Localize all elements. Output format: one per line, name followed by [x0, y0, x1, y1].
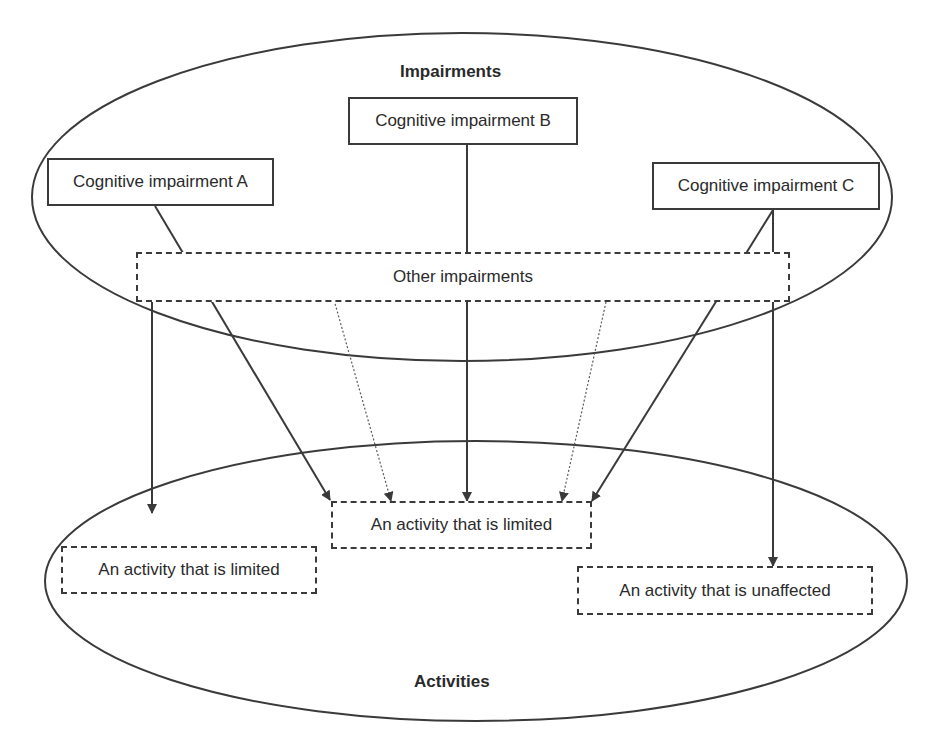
- cognitive-impairment-c-label: Cognitive impairment C: [678, 176, 855, 196]
- activities-title: Activities: [414, 672, 490, 692]
- edge-other-to-center-limited-dotted-1: [334, 300, 391, 501]
- other-impairments-box: Other impairments: [136, 252, 790, 302]
- activity-limited-center-label: An activity that is limited: [371, 515, 552, 535]
- edge-a-to-center-limited: [155, 206, 330, 500]
- impairment-activity-diagram: Impairments Activities Cognitive impairm…: [0, 0, 936, 749]
- cognitive-impairment-b-label: Cognitive impairment B: [375, 111, 551, 131]
- activity-unaffected-box: An activity that is unaffected: [577, 566, 873, 615]
- cognitive-impairment-c-box: Cognitive impairment C: [652, 162, 880, 210]
- cognitive-impairment-a-label: Cognitive impairment A: [73, 172, 248, 192]
- impairments-title: Impairments: [400, 62, 501, 82]
- activity-unaffected-label: An activity that is unaffected: [619, 581, 830, 601]
- activity-limited-center-box: An activity that is limited: [331, 501, 592, 549]
- cognitive-impairment-a-box: Cognitive impairment A: [47, 158, 274, 206]
- edge-other-to-center-limited-dotted-2: [562, 302, 606, 501]
- cognitive-impairment-b-box: Cognitive impairment B: [348, 97, 578, 145]
- activity-limited-left-label: An activity that is limited: [98, 560, 279, 580]
- other-impairments-label: Other impairments: [393, 267, 533, 287]
- activity-limited-left-box: An activity that is limited: [61, 546, 317, 594]
